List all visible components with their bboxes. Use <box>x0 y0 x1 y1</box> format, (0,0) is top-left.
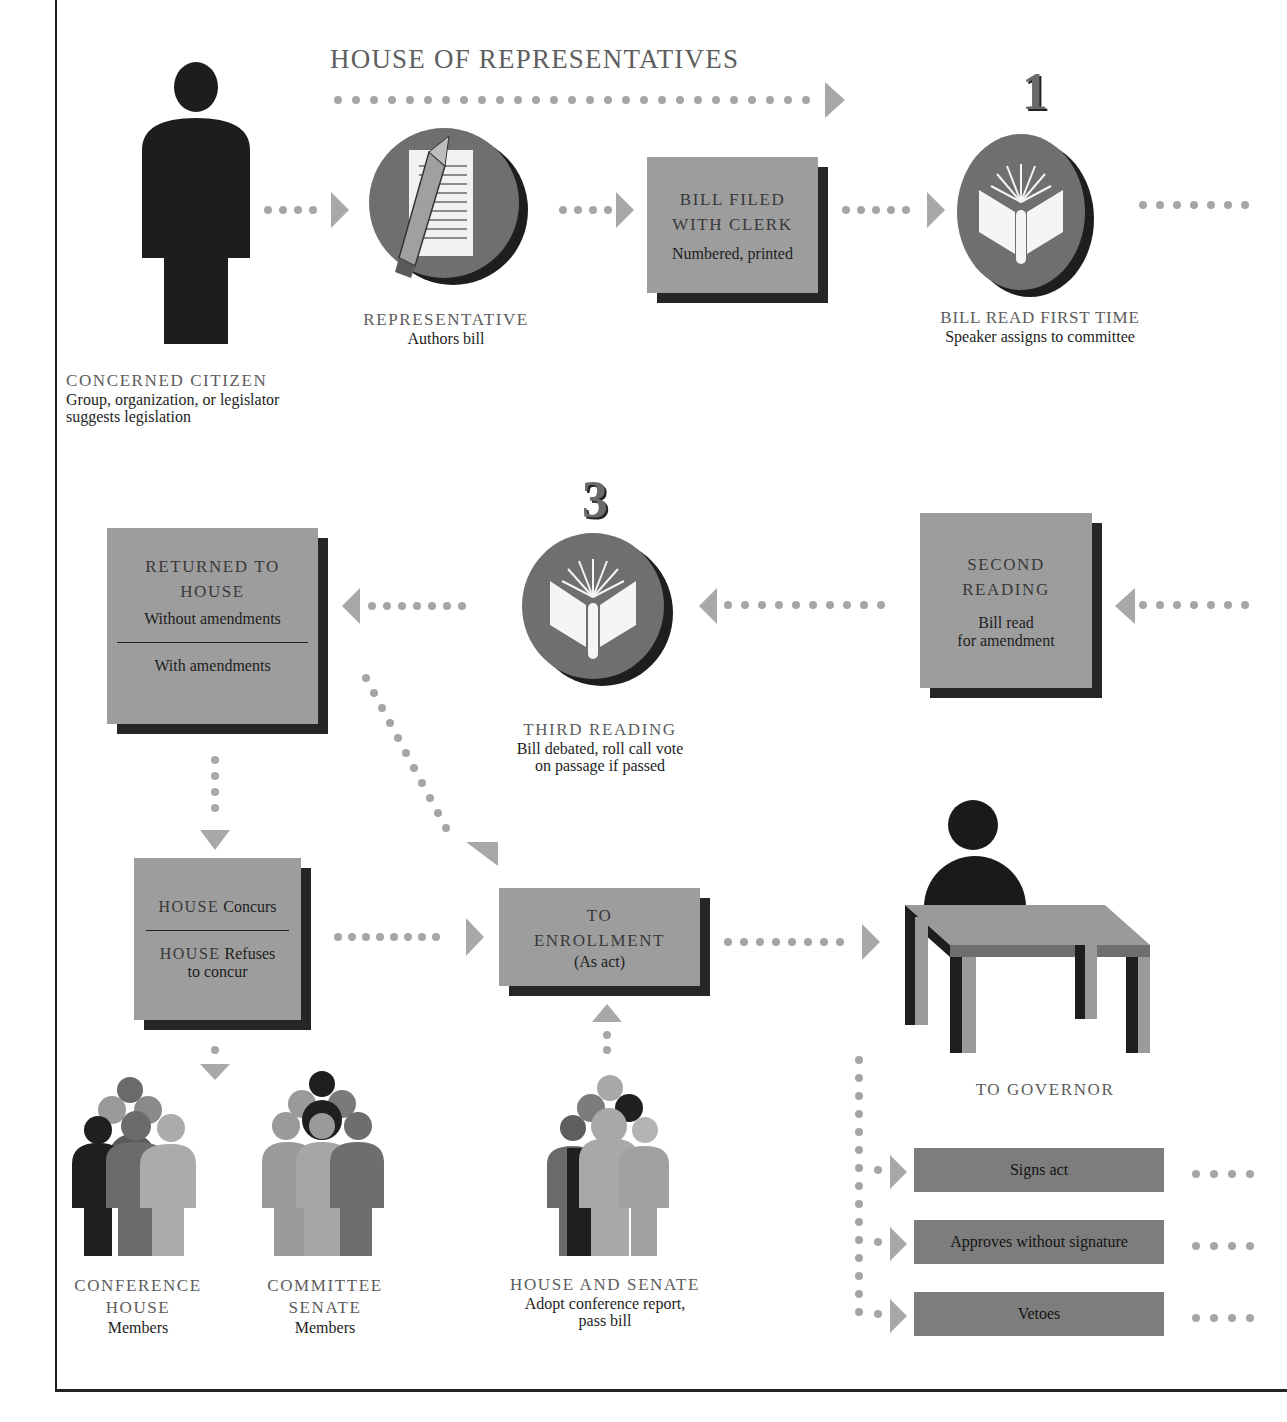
returned-to-house-box: RETURNED TO HOUSE Without amendments Wit… <box>107 528 318 724</box>
conference-house-label: CONFERENCE HOUSE Members <box>58 1275 218 1336</box>
citizen-label: CONCERNED CITIZEN Group, organization, o… <box>66 371 279 425</box>
open-book-icon <box>522 533 664 679</box>
house-and-senate-label: HOUSE AND SENATE Adopt conference report… <box>480 1275 730 1329</box>
citizen-figure-icon <box>138 62 258 342</box>
governor-action-signs: Signs act <box>914 1148 1164 1192</box>
step-number-1: 1 <box>1022 62 1048 121</box>
committee-senate-members-icon <box>260 1068 390 1258</box>
second-reading-box: SECOND READING Bill read for amendment <box>920 513 1092 688</box>
governor-action-vetoes: Vetoes <box>914 1292 1164 1336</box>
representative-label: REPRESENTATIVE Authors bill <box>356 310 536 347</box>
conference-house-members-icon <box>68 1068 198 1258</box>
title-dotted-line <box>334 96 810 104</box>
governor-action-approves: Approves without signature <box>914 1220 1164 1264</box>
house-and-senate-members-icon <box>545 1068 675 1258</box>
third-reading-label: THIRD READING Bill debated, roll call vo… <box>480 720 720 774</box>
pencil-document-icon <box>369 128 519 278</box>
divider <box>117 642 308 643</box>
enrollment-box: TO ENROLLMENT (As act) <box>499 888 700 986</box>
committee-senate-label: COMMITTEE SENATE Members <box>245 1275 405 1336</box>
open-book-icon <box>957 134 1085 290</box>
step-number-3: 3 <box>582 470 608 529</box>
governor-at-desk-icon <box>900 795 1160 1055</box>
divider <box>146 930 289 931</box>
governor-label: TO GOVERNOR <box>930 1080 1160 1100</box>
bill-filed-box: BILL FILED WITH CLERK Numbered, printed <box>647 157 818 293</box>
first-reading-label: BILL READ FIRST TIME Speaker assigns to … <box>920 308 1160 345</box>
house-concurs-box: HOUSE Concurs HOUSE Refuses to concur <box>134 858 301 1020</box>
